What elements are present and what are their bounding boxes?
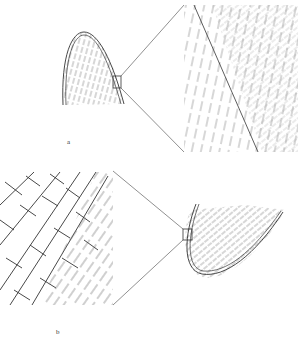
panel-label-b: b	[56, 328, 60, 336]
panel-label-a: a	[67, 138, 70, 146]
panel-a-magnified	[184, 5, 298, 152]
panel-b-fold	[183, 204, 285, 278]
figure-canvas	[0, 0, 298, 344]
panel-a-fold	[63, 5, 184, 152]
panel-b-magnified	[0, 172, 113, 305]
